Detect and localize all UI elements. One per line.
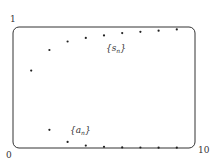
series-s-n-points <box>30 28 178 71</box>
data-point <box>176 28 178 30</box>
data-point <box>121 146 123 148</box>
data-point <box>103 34 105 36</box>
data-point <box>85 144 87 146</box>
series-label-s-n: {sn} <box>106 43 126 54</box>
data-point <box>176 147 178 149</box>
data-point <box>30 69 32 71</box>
data-point <box>158 147 160 149</box>
data-point <box>67 40 69 42</box>
series-a-n-points <box>48 129 178 149</box>
sequence-chart: {sn} {an} <box>0 0 215 165</box>
data-point <box>158 30 160 32</box>
plot-frame <box>13 27 195 148</box>
y-axis-max-label: 1 <box>10 14 16 24</box>
series-label-a-n: {an} <box>70 125 91 136</box>
data-point <box>139 146 141 148</box>
data-point <box>85 37 87 39</box>
data-point <box>48 49 50 51</box>
data-point <box>103 146 105 148</box>
data-point <box>139 31 141 33</box>
x-axis-min-label: 0 <box>6 150 12 160</box>
data-point <box>48 129 50 131</box>
data-point <box>121 32 123 34</box>
x-axis-max-label: 10 <box>198 145 209 155</box>
data-point <box>67 141 69 143</box>
